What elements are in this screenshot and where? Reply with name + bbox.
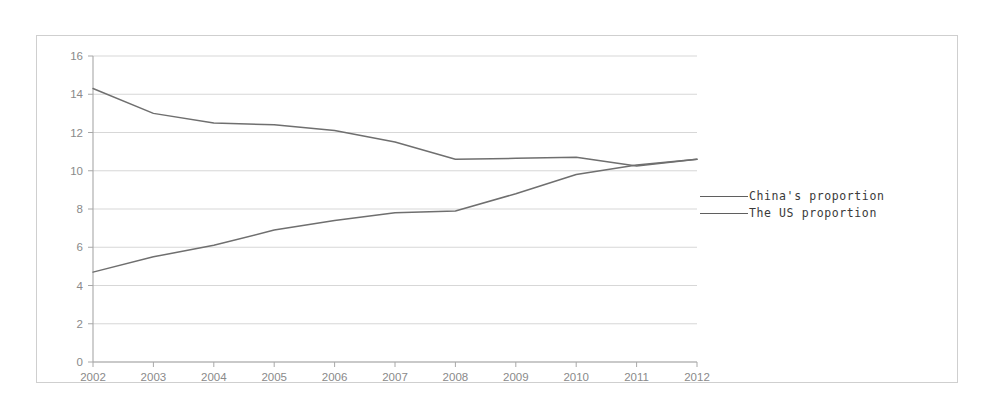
chart-figure: 0246810121416 20022003200420052006200720… xyxy=(0,0,992,413)
y-tick-label: 14 xyxy=(70,88,83,100)
gridlines xyxy=(93,56,697,362)
y-axis-ticks xyxy=(88,56,93,362)
x-tick-label: 2004 xyxy=(201,371,227,383)
legend-line-swatch-icon xyxy=(700,196,748,197)
legend-label-china: China's proportion xyxy=(749,188,884,205)
chart-legend: China's proportion The US proportion xyxy=(700,188,930,222)
y-axis-tick-labels: 0246810121416 xyxy=(70,50,83,368)
y-tick-label: 12 xyxy=(70,127,83,139)
x-tick-label: 2008 xyxy=(443,371,469,383)
series-line-china xyxy=(93,159,697,272)
y-tick-label: 8 xyxy=(77,203,83,215)
x-axis-ticks xyxy=(93,362,697,367)
x-tick-label: 2012 xyxy=(684,371,710,383)
x-tick-label: 2010 xyxy=(563,371,589,383)
y-tick-label: 0 xyxy=(77,356,83,368)
legend-label-us: The US proportion xyxy=(749,205,877,222)
legend-item-us[interactable]: The US proportion xyxy=(700,205,930,222)
x-tick-label: 2006 xyxy=(322,371,348,383)
y-tick-label: 16 xyxy=(70,50,83,62)
x-axis-tick-labels: 2002200320042005200620072008200920102011… xyxy=(80,371,710,383)
x-tick-label: 2002 xyxy=(80,371,106,383)
x-tick-label: 2003 xyxy=(141,371,167,383)
x-tick-label: 2009 xyxy=(503,371,529,383)
x-tick-label: 2007 xyxy=(382,371,408,383)
y-tick-label: 2 xyxy=(77,318,83,330)
x-tick-label: 2011 xyxy=(624,371,649,383)
legend-line-swatch-icon xyxy=(700,213,748,214)
series-line-us xyxy=(93,89,697,166)
y-tick-label: 6 xyxy=(77,241,83,253)
x-tick-label: 2005 xyxy=(261,371,287,383)
data-series xyxy=(93,89,697,273)
legend-item-china[interactable]: China's proportion xyxy=(700,188,930,205)
y-tick-label: 10 xyxy=(70,165,83,177)
y-tick-label: 4 xyxy=(77,280,84,292)
